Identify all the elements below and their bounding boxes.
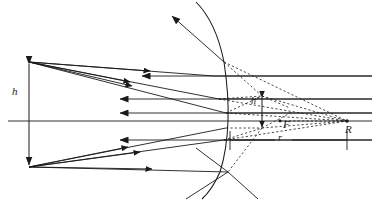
virtual-construction-rays <box>219 62 347 172</box>
reflected-ray-down-left <box>186 172 228 199</box>
object-top-ray-arrow-b <box>29 62 130 82</box>
incident-rays <box>120 76 372 140</box>
label-center-of-curvature: R <box>345 124 352 135</box>
label-image-height: h′ <box>251 96 258 106</box>
label-object-height: h <box>12 86 18 97</box>
optics-figure: h h′ F R r <box>0 0 374 201</box>
focal-point-marker <box>279 120 282 123</box>
concave-mirror <box>196 2 228 199</box>
label-focal-point: F <box>283 119 290 130</box>
rays-from-object-top <box>29 62 226 113</box>
object-bottom-ray-arrow-b <box>29 147 128 167</box>
label-radius: r <box>278 133 282 143</box>
mirror-tail-down-right <box>228 172 258 199</box>
reflected-ray-up-left <box>172 16 224 62</box>
ray-diagram-canvas <box>0 0 374 201</box>
object-bottom-ray-arrow-a <box>29 152 140 167</box>
